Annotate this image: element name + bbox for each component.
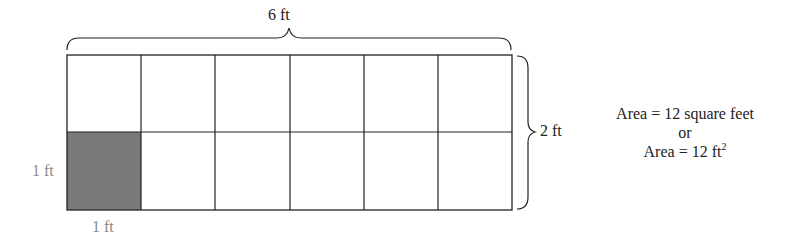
area-equation-units: Area = 12 ft2 [580,142,790,161]
unit-side-vertical-label: 1 ft [32,162,54,180]
or-text: or [580,123,790,142]
height-label: 2 ft [540,122,562,140]
shaded-unit-square [67,132,141,210]
width-label: 6 ft [268,6,290,24]
unit-side-horizontal-label: 1 ft [92,218,114,236]
width-brace [67,28,511,50]
area-equation-words: Area = 12 square feet [580,104,790,123]
height-brace [517,56,535,209]
exponent: 2 [721,141,726,152]
area-equation-units-base: Area = 12 ft [644,143,722,160]
